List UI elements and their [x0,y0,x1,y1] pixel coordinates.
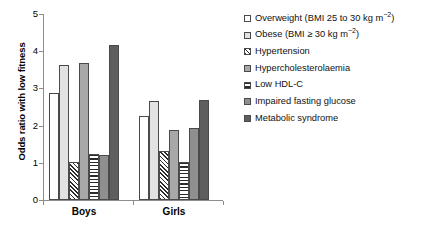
bar [99,155,109,200]
x-tick-mark [133,201,134,205]
y-tick-label: 2 [33,121,38,131]
bar [109,45,119,200]
light-grey-swatch [244,32,251,39]
x-tick-mark [43,201,44,205]
grey-swatch [244,98,251,105]
legend-item: Hypertension [244,43,427,60]
x-tick-mark [223,201,224,205]
y-tick-mark [39,88,43,89]
legend-item: Metabolic syndrome [244,110,427,127]
bars-container [43,14,223,200]
legend-item: Obese (BMI ≥ 30 kg m−2) [244,27,427,44]
y-tick-mark [39,51,43,52]
legend-item: Hypercholesterolaemia [244,60,427,77]
y-tick-label: 0 [33,195,38,205]
bar-chart-figure: Odds ratio with low fitness 012345 BoysG… [0,0,427,251]
bar [139,116,149,200]
x-axis-group-labels: BoysGirls [43,206,223,224]
bar [89,154,99,200]
x-group-label: Boys [72,206,96,217]
legend-item-label: Hypercholesterolaemia [255,64,350,73]
y-tick-mark [39,14,43,15]
y-axis-tick-labels: 012345 [22,14,38,200]
horizontal-hatch-swatch [244,82,251,89]
y-tick-mark [39,126,43,127]
medium-grey-swatch [244,65,251,72]
legend-item-label: Metabolic syndrome [255,114,338,123]
bar [149,101,159,200]
legend-item-label: Low HDL-C [255,80,303,89]
bar [69,162,79,200]
bar [199,100,209,200]
y-tick-label: 4 [33,46,38,56]
legend-item-label: Overweight (BMI 25 to 30 kg m−2) [255,14,394,23]
bar [79,63,89,200]
legend-item-label: Impaired fasting glucose [255,97,356,106]
y-tick-label: 3 [33,84,38,94]
bar [59,65,69,200]
bar [49,93,59,200]
bar [169,130,179,200]
open-white-swatch [244,15,251,22]
x-group-label: Girls [163,206,186,217]
dark-grey-swatch [244,115,251,122]
legend-item-label: Hypertension [255,47,310,56]
y-tick-label: 5 [33,9,38,19]
legend-item: Overweight (BMI 25 to 30 kg m−2) [244,10,427,27]
chart-legend: Overweight (BMI 25 to 30 kg m−2)Obese (B… [244,10,427,127]
legend-item: Impaired fasting glucose [244,93,427,110]
legend-item-label: Obese (BMI ≥ 30 kg m−2) [255,30,359,39]
y-tick-label: 1 [33,158,38,168]
plot-area: Odds ratio with low fitness 012345 BoysG… [0,0,240,251]
diagonal-hatch-swatch [244,48,251,55]
bar [189,128,199,200]
bar [179,162,189,200]
y-tick-mark [39,163,43,164]
legend-item: Low HDL-C [244,77,427,94]
bar [159,151,169,200]
